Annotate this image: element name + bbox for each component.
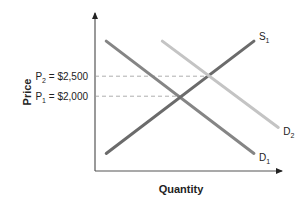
curve-label-d2: D2: [283, 126, 294, 139]
x-axis-title: Quantity: [159, 183, 204, 195]
price-label-2: P2 = $2,500: [35, 71, 88, 84]
curve-label-d1: D1: [259, 152, 270, 165]
supply-demand-chart: P2 = $2,500P1 = $2,000 D1S1D2 Price Quan…: [0, 0, 296, 200]
curve-label-s1: S1: [259, 31, 270, 44]
price-label-1: P1 = $2,000: [35, 91, 88, 104]
curve-d2: [162, 41, 278, 127]
y-axis-title: Price: [21, 79, 33, 106]
